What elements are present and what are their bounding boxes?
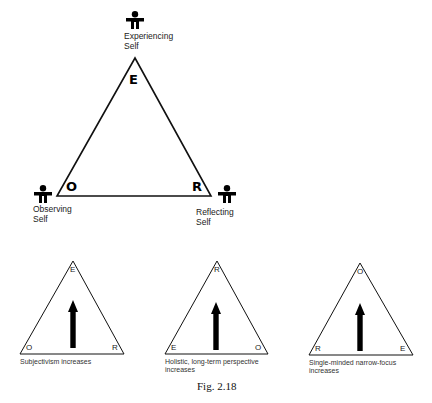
caption-line: increases (309, 367, 396, 375)
up-arrow-icon (211, 302, 221, 350)
experiencing-person-icon (126, 11, 144, 29)
reflecting-self-label: Reflecting Self (196, 208, 234, 227)
small-1-left-letter: O (26, 344, 32, 352)
small-1-top-letter: E (70, 266, 75, 274)
label-line: Self (124, 42, 173, 52)
up-arrow-icon (68, 300, 78, 348)
small-3-caption: Single-minded narrow-focus increases (309, 359, 396, 375)
caption-line: increases (165, 366, 259, 374)
caption-line: Single-minded narrow-focus (309, 359, 396, 367)
vertex-letter-o: O (66, 180, 77, 193)
small-2-caption: Holistic, long-term perspective increase… (165, 358, 259, 374)
experiencing-self-label: Experiencing Self (124, 32, 173, 51)
observing-self-label: Observing Self (33, 205, 72, 224)
caption-line: Subjectivism increases (20, 358, 91, 366)
small-2-right-letter: O (255, 344, 261, 352)
small-1-right-letter: R (112, 344, 118, 352)
label-line: Self (196, 218, 234, 228)
vertex-letter-e: E (129, 73, 138, 86)
small-3-left-letter: R (315, 345, 321, 353)
caption-line: Holistic, long-term perspective (165, 358, 259, 366)
vertex-letter-r: R (192, 180, 202, 193)
small-2-top-letter: R (214, 266, 220, 274)
reflecting-person-icon (218, 185, 236, 203)
label-line: Self (33, 215, 72, 225)
observing-person-icon (34, 185, 52, 203)
small-1-caption: Subjectivism increases (20, 358, 91, 366)
diagram-canvas (0, 0, 432, 403)
small-3-top-letter: O (357, 268, 363, 276)
figure-caption: Fig. 2.18 (197, 380, 236, 392)
small-3-right-letter: E (400, 345, 405, 353)
up-arrow-icon (355, 303, 365, 351)
small-2-left-letter: E (171, 344, 176, 352)
